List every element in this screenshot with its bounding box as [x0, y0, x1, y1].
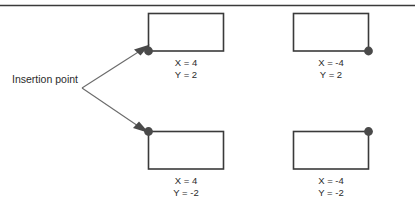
coord-label-top-right: X = -4 Y = 2 [288, 57, 374, 81]
insertion-dot-bottom-right [364, 127, 373, 136]
coord-x-top-left: X = 4 [143, 57, 229, 69]
coord-x-bottom-left: X = 4 [143, 175, 229, 187]
leader-line-lower [82, 88, 141, 128]
coord-x-bottom-right: X = -4 [288, 175, 374, 187]
leader-lines [82, 45, 150, 134]
box-top-right [294, 14, 369, 52]
coord-label-top-left: X = 4 Y = 2 [143, 57, 229, 81]
box-bottom-right [294, 132, 369, 170]
insertion-dot-top-left [144, 47, 153, 56]
insertion-dot-top-right [364, 47, 373, 56]
box-bottom-left [149, 132, 224, 170]
box-top-left [149, 14, 224, 52]
leader-line-upper [82, 49, 143, 88]
insertion-point-label-line2: point [55, 73, 78, 85]
insertion-point-label: Insertion point [6, 73, 78, 86]
coord-x-top-right: X = -4 [288, 57, 374, 69]
coord-label-bottom-right: X = -4 Y = -2 [288, 175, 374, 199]
coord-y-top-right: Y = 2 [288, 69, 374, 81]
coord-y-bottom-left: Y = -2 [143, 187, 229, 199]
coord-y-top-left: Y = 2 [143, 69, 229, 81]
insertion-dot-bottom-left [144, 127, 153, 136]
insertion-point-label-line1: Insertion [12, 73, 52, 85]
insertion-point-diagram: Insertion point X = 4 Y = 2 X = -4 Y = 2… [0, 0, 415, 217]
coord-label-bottom-left: X = 4 Y = -2 [143, 175, 229, 199]
coord-y-bottom-right: Y = -2 [288, 187, 374, 199]
